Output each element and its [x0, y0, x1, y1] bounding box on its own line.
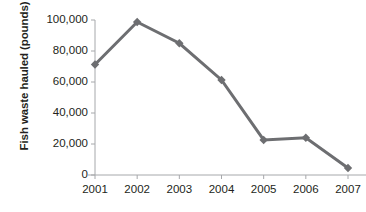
data-point-markers	[91, 18, 352, 172]
plot-area	[0, 0, 366, 212]
data-series-line	[95, 22, 348, 168]
axis-tick-marks	[91, 20, 348, 179]
line-chart: Fish waste hauled (pounds) 100,00080,000…	[0, 0, 366, 212]
